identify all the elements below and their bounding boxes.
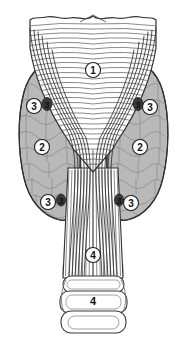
thyroid-anatomy-figure: 3 3 3 3 1 2 2 3 bbox=[0, 0, 187, 343]
callout-3-lower-right: 3 bbox=[124, 196, 139, 211]
parathyroid-lower-left: 3 bbox=[57, 194, 66, 206]
callout-3-lower-right-text: 3 bbox=[128, 198, 134, 209]
tracheal-ring-3 bbox=[61, 311, 126, 333]
parathyroid-upper-left-text: 3 bbox=[44, 100, 49, 110]
parathyroid-lower-right: 3 bbox=[115, 194, 124, 206]
callout-4-trachea: 4 bbox=[86, 248, 101, 263]
callout-2-right-text: 2 bbox=[137, 142, 143, 153]
callout-3-lower-left: 3 bbox=[41, 195, 56, 210]
callout-3-upper-left: 3 bbox=[27, 99, 42, 114]
parathyroid-lower-left-text: 3 bbox=[58, 196, 63, 206]
callout-1-text: 1 bbox=[90, 65, 96, 76]
anatomy-illustration: 3 3 3 3 1 2 2 3 bbox=[0, 0, 187, 343]
callout-2-right: 2 bbox=[133, 140, 148, 155]
callout-4-trachea-text: 4 bbox=[90, 250, 96, 261]
callout-3-upper-right: 3 bbox=[143, 100, 158, 115]
parathyroid-upper-right-text: 3 bbox=[135, 100, 140, 110]
callout-4-rings: 4 bbox=[90, 295, 97, 307]
parathyroid-lower-right-text: 3 bbox=[116, 196, 121, 206]
parathyroid-upper-right: 3 bbox=[133, 98, 143, 111]
callout-2-left: 2 bbox=[35, 140, 50, 155]
callout-3-upper-left-text: 3 bbox=[31, 101, 37, 112]
callout-3-upper-right-text: 3 bbox=[147, 102, 153, 113]
callout-2-left-text: 2 bbox=[39, 142, 45, 153]
callout-4-rings-text: 4 bbox=[90, 295, 97, 307]
callout-1: 1 bbox=[86, 63, 101, 78]
parathyroid-upper-left: 3 bbox=[42, 98, 52, 111]
callout-3-lower-left-text: 3 bbox=[45, 197, 51, 208]
